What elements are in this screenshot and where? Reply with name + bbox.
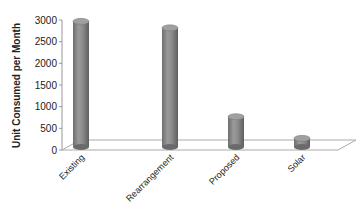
y-tick-label: 1000: [35, 101, 58, 112]
y-tick-label: 2000: [35, 58, 58, 69]
bars: [73, 18, 310, 150]
y-tick-label: 500: [40, 123, 57, 134]
bar-proposed: [228, 114, 244, 150]
bar-existing: [73, 18, 89, 150]
y-axis: 050010001500200025003000: [35, 15, 62, 156]
bar-solar: [294, 135, 310, 150]
bar-chart: 050010001500200025003000 ExistingRearran…: [0, 0, 359, 216]
x-tick-label: Rearrangement: [124, 152, 176, 204]
y-tick-label: 0: [51, 145, 57, 156]
x-tick-label: Existing: [57, 152, 86, 181]
y-tick-label: 1500: [35, 80, 58, 91]
x-tick-label: Proposed: [207, 152, 241, 186]
x-axis-labels: ExistingRearrangementProposedSolar: [57, 152, 307, 204]
x-tick-label: Solar: [285, 152, 307, 174]
y-tick-label: 2500: [35, 36, 58, 47]
chart-floor: [62, 140, 356, 150]
bar-rearrangement: [162, 25, 178, 150]
y-tick-label: 3000: [35, 15, 58, 26]
